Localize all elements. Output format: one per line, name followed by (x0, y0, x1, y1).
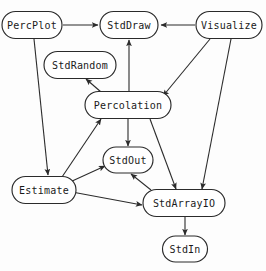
node-stddraw[interactable]: StdDraw (100, 12, 158, 39)
node-visualize[interactable]: Visualize (196, 12, 262, 39)
edge-estimate-to-stdout (70, 166, 105, 182)
nodes-layer: PercPlotStdDrawVisualizeStdRandomPercola… (2, 12, 262, 263)
node-label-percplot: PercPlot (7, 20, 57, 31)
edge-estimate-to-percolation (62, 119, 101, 177)
node-label-stdin: StdIn (169, 244, 200, 255)
edge-estimate-to-stdarrayio (72, 192, 142, 205)
node-label-stdrandom: StdRandom (52, 60, 108, 71)
edge-percolation-to-stdrandom (86, 79, 101, 92)
edge-percolation-to-stdarrayio (150, 119, 176, 189)
node-label-estimate: Estimate (19, 185, 69, 196)
node-percolation[interactable]: Percolation (85, 92, 171, 119)
node-stdin[interactable]: StdIn (163, 236, 208, 262)
graph-canvas: PercPlotStdDrawVisualizeStdRandomPercola… (0, 0, 266, 271)
node-label-visualize: Visualize (201, 20, 257, 31)
node-percplot[interactable]: PercPlot (2, 12, 62, 39)
node-estimate[interactable]: Estimate (12, 177, 76, 204)
edge-visualize-to-stdarrayio (202, 39, 231, 189)
dependency-diagram: PercPlotStdDrawVisualizeStdRandomPercola… (0, 0, 266, 271)
edge-stdarrayio-to-stdout (131, 174, 151, 190)
node-label-stdout: StdOut (109, 155, 146, 166)
node-label-stdarrayio: StdArrayIO (153, 198, 215, 209)
node-stdarrayio[interactable]: StdArrayIO (143, 190, 225, 217)
edge-visualize-to-percolation (163, 39, 210, 96)
node-stdout[interactable]: StdOut (103, 147, 153, 173)
node-label-percolation: Percolation (94, 100, 162, 111)
node-label-stddraw: StdDraw (107, 20, 151, 31)
node-stdrandom[interactable]: StdRandom (44, 52, 116, 79)
